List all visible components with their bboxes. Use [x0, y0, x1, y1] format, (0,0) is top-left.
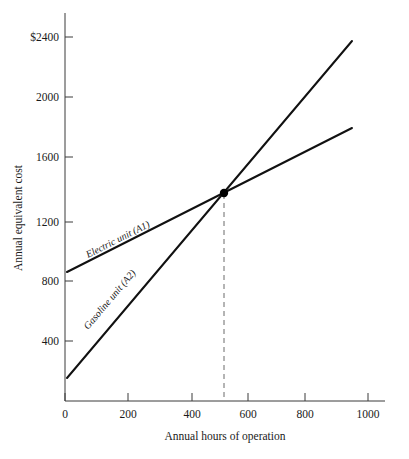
series-line-electric-unit	[67, 128, 352, 272]
x-tick-label-0: 0	[62, 408, 68, 420]
chart-plot-area: $2400 2000 1600 1200 800 400 0 200 400 6…	[0, 0, 409, 459]
y-axis-title: Annual equivalent cost	[12, 164, 25, 271]
chart-figure: $2400 2000 1600 1200 800 400 0 200 400 6…	[0, 0, 409, 459]
y-tick-label-800: 800	[42, 275, 60, 287]
series-label-electric-unit: Electric unit (A1)	[83, 218, 152, 261]
x-axis-title: Annual hours of operation	[164, 430, 285, 443]
break-even-point-marker	[220, 189, 228, 197]
series-label-gasoline-unit: Gasoline unit (A2)	[81, 267, 139, 332]
x-tick-label-200: 200	[119, 408, 137, 420]
y-tick-label-400: 400	[42, 335, 60, 347]
y-tick-label-2000: 2000	[36, 91, 59, 103]
y-tick-label-1200: 1200	[36, 216, 59, 228]
x-tick-label-1000: 1000	[357, 408, 380, 420]
y-tick-label-1600: 1600	[36, 151, 59, 163]
x-tick-label-600: 600	[239, 408, 257, 420]
series-line-gasoline-unit	[67, 41, 352, 378]
x-tick-label-400: 400	[183, 408, 201, 420]
y-tick-label-2400: $2400	[30, 31, 59, 43]
x-tick-label-800: 800	[296, 408, 314, 420]
